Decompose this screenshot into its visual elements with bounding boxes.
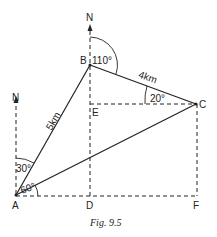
distance-label-ab: 5km — [44, 110, 63, 132]
label-f: F — [193, 200, 199, 211]
label-c: C — [199, 99, 206, 110]
angle-label-60: 60° — [19, 180, 37, 196]
figure-caption: Fig. 9.5 — [89, 217, 121, 228]
angle-label-30: 30° — [16, 163, 31, 174]
north-label-b: N — [86, 12, 93, 23]
label-e: E — [92, 107, 99, 118]
angle-arc-20 — [145, 86, 147, 104]
north-label-a: N — [12, 92, 19, 103]
angle-label-20: 20° — [150, 93, 165, 104]
bearing-diagram: N N A B C D E F 30° 60° 110° 20° 5km 4km… — [0, 0, 217, 237]
label-b: B — [80, 55, 87, 66]
point-a — [15, 194, 18, 197]
point-c — [195, 103, 198, 106]
line-ac — [16, 104, 196, 195]
label-d: D — [86, 200, 93, 211]
angle-label-110: 110° — [92, 55, 112, 66]
north-arrow-icon-b — [88, 24, 93, 31]
label-a: A — [12, 200, 19, 211]
